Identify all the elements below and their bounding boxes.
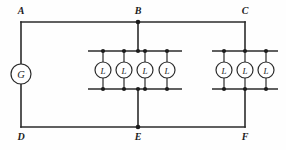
lamp-right-2-label: L xyxy=(241,66,247,76)
lamp-left-3-label: L xyxy=(141,66,147,76)
lamp-right-1: L xyxy=(216,51,232,89)
circuit-schematic-canvas: L L L L xyxy=(0,0,286,150)
junction-dot-left-bottom-3 xyxy=(143,87,147,91)
lamp-right-3: L xyxy=(258,51,274,89)
lamp-right-2: L xyxy=(237,51,253,89)
lamp-right-3-label: L xyxy=(262,66,268,76)
node-label-C: C xyxy=(242,5,249,16)
generator: G xyxy=(11,64,31,84)
node-labels: A B C D E F xyxy=(16,5,248,142)
junction-dot-right-bottom-feed xyxy=(243,87,247,91)
junction-dot-right-top-3 xyxy=(264,49,268,53)
junction-dot-left-bottom-4 xyxy=(165,87,169,91)
node-label-F: F xyxy=(241,131,249,142)
outer-loop-wires xyxy=(21,22,245,127)
generator-label: G xyxy=(17,69,25,80)
junction-dot-left-top-4 xyxy=(165,49,169,53)
lamp-left-1: L xyxy=(95,51,111,89)
lamp-left-3: L xyxy=(137,51,153,89)
junction-dot-right-top-1 xyxy=(222,49,226,53)
junction-dot-B xyxy=(136,20,141,25)
lamp-right-1-label: L xyxy=(220,66,226,76)
junction-dot-left-bottom-feed xyxy=(136,87,140,91)
node-label-B: B xyxy=(134,5,142,16)
junction-dot-right-bottom-3 xyxy=(264,87,268,91)
junction-dot-right-bottom-1 xyxy=(222,87,226,91)
junction-dot-left-top-2 xyxy=(122,49,126,53)
junction-dot-right-top-feed xyxy=(243,49,247,53)
lamp-left-2: L xyxy=(116,51,132,89)
node-label-D: D xyxy=(16,131,24,142)
lamp-left-4-label: L xyxy=(163,66,169,76)
junction-dot-left-top-1 xyxy=(101,49,105,53)
junction-dot-E xyxy=(136,125,141,130)
junction-dot-left-bottom-1 xyxy=(101,87,105,91)
junction-dot-left-bottom-2 xyxy=(122,87,126,91)
lamp-left-2-label: L xyxy=(120,66,126,76)
junction-dot-left-top-3 xyxy=(143,49,147,53)
node-label-A: A xyxy=(17,5,25,16)
circuit-diagram: L L L L xyxy=(0,0,286,150)
lamp-left-4: L xyxy=(159,51,175,89)
left-lamp-bank: L L L L xyxy=(88,51,182,89)
node-label-E: E xyxy=(134,131,142,142)
junction-dot-left-top-feed xyxy=(136,49,140,53)
lamp-left-1-label: L xyxy=(99,66,105,76)
right-lamp-bank: L L L xyxy=(212,51,278,89)
